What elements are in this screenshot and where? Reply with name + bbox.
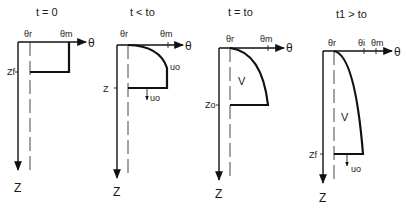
- z-axis-label: Z: [14, 181, 21, 195]
- theta-axis-label: θ: [394, 45, 401, 59]
- theta-i-label: θi: [358, 38, 365, 48]
- z-axis-label: Z: [319, 191, 326, 205]
- theta-m-label: θm: [60, 29, 73, 39]
- infiltration-profile-diagram: t = 0 θr θm θ Zf Z t < to θr θm θ uo uo …: [0, 0, 407, 210]
- panel-title: t1 > to: [336, 8, 367, 20]
- moisture-profile: [230, 48, 268, 105]
- panel-t0: t = 0 θr θm θ Zf Z: [7, 6, 95, 195]
- z-axis-label: Z: [215, 187, 222, 201]
- theta-m-label: θm: [160, 29, 173, 39]
- panel-t-less-to: t < to θr θm θ uo uo Z Z: [103, 6, 192, 199]
- z-marker-label: Z: [103, 84, 109, 94]
- flux-top-label: uo: [170, 62, 180, 72]
- panel-title: t = to: [228, 6, 253, 18]
- volume-label: V: [341, 111, 349, 123]
- flux-bottom-label: uo: [150, 93, 160, 103]
- theta-axis-label: θ: [185, 39, 192, 53]
- moisture-profile: [334, 51, 363, 154]
- volume-label: V: [238, 75, 246, 87]
- theta-r-label: θr: [226, 34, 234, 44]
- z-axis-label: Z: [113, 185, 120, 199]
- theta-r-label: θr: [24, 29, 32, 39]
- z-marker-label: Zf: [309, 150, 317, 160]
- moisture-profile: [128, 45, 167, 88]
- theta-m-label: θm: [260, 34, 273, 44]
- theta-axis-label: θ: [88, 36, 95, 50]
- flux-bottom-label: uo: [351, 164, 361, 174]
- moisture-profile: [30, 42, 69, 72]
- panel-title: t < to: [130, 6, 155, 18]
- z-marker-label: Zf: [7, 67, 15, 77]
- panel-t1-greater-to: t1 > to θr θi θm θ V uo Zf Z: [309, 8, 401, 205]
- panel-title: t = 0: [36, 6, 58, 18]
- theta-axis-label: θ: [286, 41, 293, 55]
- z-marker-label: Zo: [205, 100, 216, 110]
- theta-r-label: θr: [328, 38, 336, 48]
- panel-t-equals-to: t = to θr θm θ V Zo Z: [205, 6, 293, 201]
- theta-r-label: θr: [120, 29, 128, 39]
- theta-m-label: θm: [371, 38, 384, 48]
